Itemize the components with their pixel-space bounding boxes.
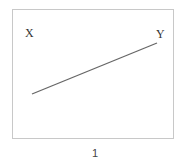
point-label-x: X (25, 27, 34, 39)
segment-line (0, 0, 187, 161)
figure-caption: 1 (90, 148, 100, 159)
point-label-y: Y (156, 28, 165, 40)
